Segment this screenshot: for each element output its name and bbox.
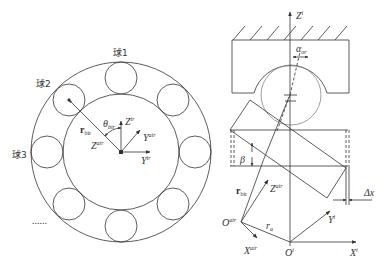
ball [31, 136, 63, 168]
inner-ring-section [230, 100, 346, 198]
z-air-label: Zair [91, 140, 104, 151]
ball-1-label: 球1 [113, 47, 128, 58]
y-i-label: Yi [328, 214, 336, 225]
x-air-axis [241, 222, 257, 238]
z-i-label: Zi [296, 10, 304, 21]
r-bir-label: rbir [80, 124, 91, 136]
ball [105, 210, 137, 242]
o-i-label: Oi [285, 247, 294, 258]
r-bir-label: rbir [236, 185, 247, 197]
x-i-label: Xi [349, 247, 358, 258]
ball [179, 136, 211, 168]
ball [105, 62, 137, 94]
delta-x-label: Δx [363, 187, 375, 198]
ellipsis-label: ...... [32, 215, 47, 226]
bearing-diagram: 球1 球2 球3 ...... θbir rbir Zir Yair Zair … [0, 0, 385, 272]
o-air-label: Oair [222, 217, 237, 228]
x-air-label: Xair [243, 245, 258, 256]
ball [53, 188, 85, 220]
bearing-front-view [31, 62, 211, 242]
outer-ring-section [232, 40, 349, 93]
ball-2-label: 球2 [36, 78, 51, 89]
y-air-axis [121, 130, 140, 152]
r-bir-vector [241, 97, 289, 222]
ball [157, 188, 189, 220]
y-ir-label: Yir [141, 155, 151, 166]
y-air-label: Yair [143, 132, 156, 143]
ball-3-label: 球3 [12, 149, 27, 160]
z-ir-label: Zir [125, 116, 135, 127]
y-i-axis [290, 211, 330, 242]
alpha-or-label: αor [296, 43, 307, 55]
theta-bir-label: θbir [103, 118, 116, 130]
ball [157, 84, 189, 116]
r-a-label: ra [266, 220, 273, 232]
beta-label: β [239, 154, 245, 165]
z-air-label: Zair [270, 183, 283, 194]
